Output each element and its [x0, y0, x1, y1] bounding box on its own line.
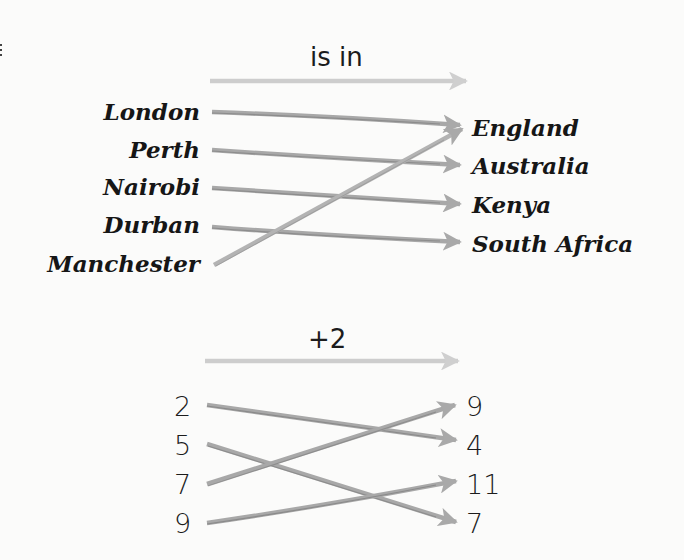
target-number-7: 7	[466, 510, 483, 537]
source-number-2: 2	[174, 393, 191, 420]
source-perth: Perth	[129, 138, 200, 161]
source-number-7: 7	[174, 471, 191, 498]
relation-label-plus-two: +2	[308, 326, 346, 352]
relation-label-is-in: is in	[310, 44, 363, 70]
source-manchester: Manchester	[47, 252, 200, 275]
number-mapping-arrows	[207, 405, 456, 524]
arrow-5-to-7	[207, 444, 456, 522]
source-number-9: 9	[174, 510, 191, 537]
target-australia: Australia	[472, 154, 590, 177]
target-number-9: 9	[466, 393, 483, 420]
arrow-7-to-9	[207, 405, 455, 484]
source-durban: Durban	[104, 213, 201, 236]
arrow-9-to-11	[207, 481, 456, 523]
target-kenya: Kenya	[472, 193, 551, 216]
source-nairobi: Nairobi	[103, 175, 200, 198]
arrow-manchester-england	[214, 129, 462, 265]
source-number-5: 5	[174, 432, 191, 459]
city-mapping-arrows	[212, 112, 462, 266]
source-london: London	[104, 100, 200, 123]
arrow-2-to-4	[207, 405, 456, 440]
target-number-11: 11	[466, 471, 500, 498]
target-england: England	[472, 116, 579, 139]
mapping-diagram-canvas	[0, 0, 684, 560]
target-south-africa: South Africa	[472, 232, 633, 255]
target-number-4: 4	[466, 432, 483, 459]
